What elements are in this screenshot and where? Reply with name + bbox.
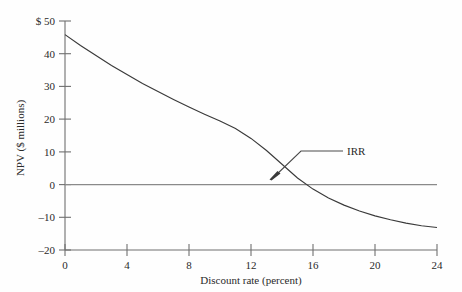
chart-svg: IRR $ 50 40 30 20 10 0 –10 –20 0 4 8 12 …: [0, 0, 462, 292]
irr-arrowhead-icon: [270, 171, 281, 181]
x-tick-label: 12: [246, 259, 257, 271]
x-axis-title: Discount rate (percent): [200, 274, 302, 287]
y-tick-label: –10: [38, 211, 56, 223]
irr-annotation: IRR: [270, 145, 367, 181]
y-tick-label: 40: [44, 48, 56, 60]
y-tick-label: $ 50: [36, 15, 56, 27]
y-tick-label: 10: [44, 146, 56, 158]
x-axis-tick-labels: 0 4 8 12 16 20 24: [62, 259, 443, 271]
npv-profile-chart: IRR $ 50 40 30 20 10 0 –10 –20 0 4 8 12 …: [0, 0, 462, 292]
x-tick-label: 8: [186, 259, 192, 271]
y-axis-title: NPV ($ millions): [14, 100, 27, 177]
x-tick-label: 0: [62, 259, 68, 271]
x-tick-label: 20: [370, 259, 382, 271]
y-tick-label: 20: [44, 113, 56, 125]
y-tick-label: 30: [44, 80, 56, 92]
irr-leader-line: [274, 151, 343, 177]
y-tick-label: 0: [50, 179, 56, 191]
x-tick-label: 24: [432, 259, 444, 271]
irr-annotation-label: IRR: [347, 145, 366, 157]
y-axis-tick-labels: $ 50 40 30 20 10 0 –10 –20: [36, 15, 56, 256]
y-tick-label: –20: [38, 244, 56, 256]
x-tick-label: 4: [124, 259, 130, 271]
x-tick-label: 16: [308, 259, 320, 271]
npv-curve: [65, 35, 437, 228]
